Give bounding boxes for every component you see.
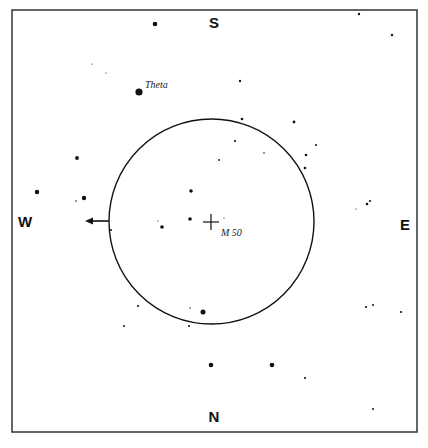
star: [358, 13, 360, 15]
star: [110, 229, 112, 231]
star: [263, 152, 265, 154]
chart-frame: [12, 10, 417, 432]
star: [105, 72, 106, 73]
direction-north-label: N: [209, 408, 220, 425]
star: [91, 63, 92, 64]
star: [366, 203, 369, 206]
star: [35, 190, 39, 194]
direction-east-label: E: [400, 216, 410, 233]
star: [75, 200, 77, 202]
star: [241, 118, 244, 121]
star: [270, 363, 275, 368]
star: [153, 22, 158, 27]
star: [209, 363, 214, 368]
star: [315, 144, 317, 146]
finder-chart: S N W E M 50 Theta: [0, 0, 428, 448]
star: [201, 310, 206, 315]
star: [304, 167, 307, 170]
star: [372, 408, 374, 410]
star: [189, 189, 193, 193]
star: [75, 156, 79, 160]
star: [369, 200, 371, 202]
star: [157, 220, 158, 221]
star: [218, 159, 220, 161]
star-label-theta: Theta: [145, 79, 168, 90]
star: [188, 217, 192, 221]
star: [293, 121, 296, 124]
star: [391, 34, 393, 36]
star: [137, 305, 139, 307]
star: [82, 196, 86, 200]
star: [304, 377, 306, 379]
star: [400, 311, 402, 313]
star: [305, 154, 308, 157]
star: [365, 306, 367, 308]
star: [160, 225, 164, 229]
star: [234, 140, 236, 142]
direction-south-label: S: [209, 14, 219, 31]
star-theta: [135, 88, 142, 95]
star: [223, 217, 224, 218]
target-label: M 50: [220, 227, 242, 238]
star: [355, 208, 356, 209]
star: [189, 307, 190, 308]
direction-west-label: W: [18, 213, 33, 230]
star: [372, 304, 374, 306]
star: [239, 80, 241, 82]
star: [188, 325, 190, 327]
star: [123, 325, 125, 327]
